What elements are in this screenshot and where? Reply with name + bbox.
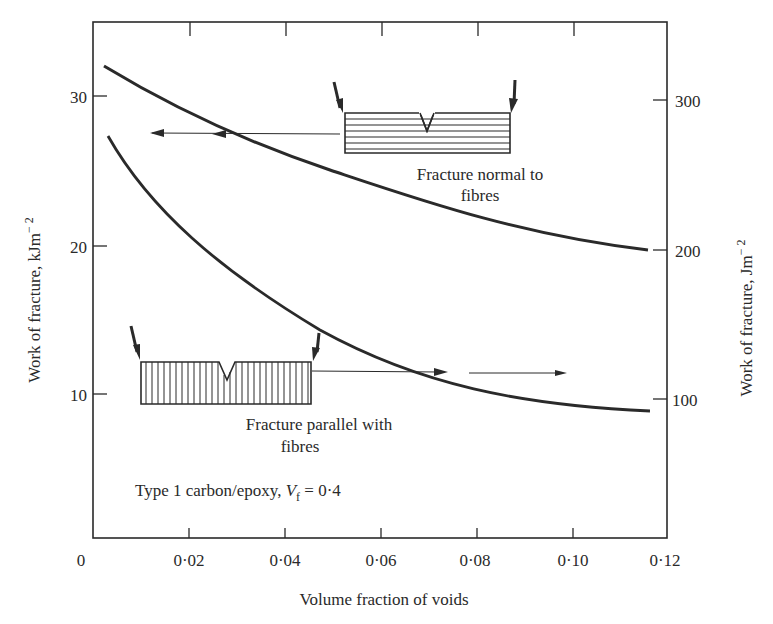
y-tick-label: 100 (672, 391, 698, 410)
x-axis-title: Volume fraction of voids (299, 590, 468, 609)
y-axis-title-left-text: Work of fracture, kJm (25, 233, 44, 383)
y-tick-label: 300 (675, 92, 701, 111)
y-axis-title-right-sup: − 2 (734, 240, 748, 256)
arrow-right-icon (434, 368, 448, 376)
x-tick-labels: 0 0·02 0·04 0·06 0·08 0·10 0·12 (77, 551, 681, 570)
x-tick-label: 0·10 (557, 551, 588, 570)
y-axis-title-left: Work of fracture, kJm− 2 (22, 217, 44, 382)
svg-text:Work of fracture, kJm− 2: Work of fracture, kJm− 2 (22, 217, 44, 382)
x-tick-label: 0·06 (365, 551, 396, 570)
y-tick-label: 200 (675, 242, 701, 261)
x-tick-label: 0·08 (459, 551, 490, 570)
label-fracture-parallel-1: Fracture parallel with (246, 415, 393, 434)
x-tick-label: 0·12 (649, 551, 680, 570)
material-annotation: Type 1 carbon/epoxy, Vf = 0·4 (135, 481, 341, 504)
material-prefix: Type 1 carbon/epoxy, (135, 481, 286, 500)
y-axis-title-left-sup: − 2 (22, 217, 36, 233)
load-arrow-icon (336, 98, 343, 113)
material-suffix: = 0·4 (300, 481, 341, 500)
arrow-left-icon (150, 129, 164, 137)
label-fracture-normal-1: Fracture normal to (417, 165, 544, 184)
x-tick-label: 0·02 (173, 551, 204, 570)
label-fracture-parallel-2: fibres (281, 437, 320, 456)
y-tick-labels-left: 30 20 10 (70, 88, 87, 405)
curve-fracture-normal (104, 66, 648, 250)
x-tick-label: 0 (77, 551, 86, 570)
x-ticks-top (190, 22, 574, 36)
y-ticks-right (653, 100, 667, 399)
y-tick-label: 30 (70, 88, 87, 107)
specimen-normal-to-fibres (150, 80, 518, 153)
y-ticks-left (93, 96, 107, 394)
y-tick-label: 10 (70, 386, 87, 405)
y-axis-title-right: Work of fracture, Jm− 2 (734, 240, 756, 397)
x-ticks-bottom (189, 528, 573, 538)
svg-text:Work of fracture, Jm− 2: Work of fracture, Jm− 2 (734, 240, 756, 397)
x-tick-label: 0·04 (269, 551, 301, 570)
y-tick-labels-right: 300 200 100 (672, 92, 701, 410)
label-fracture-normal-2: fibres (461, 186, 500, 205)
pointer-line-normal (152, 133, 340, 134)
plot-frame (93, 22, 667, 538)
y-axis-title-right-text: Work of fracture, Jm (737, 255, 756, 396)
arrow-right-icon (555, 370, 567, 376)
specimen-parallel-with-fibres (131, 326, 567, 404)
load-arrow-icon (312, 347, 320, 361)
work-of-fracture-chart: 0 0·02 0·04 0·06 0·08 0·10 0·12 30 20 10… (0, 0, 773, 624)
load-arrow-icon (509, 98, 518, 113)
curve-fracture-parallel (108, 136, 650, 411)
pointer-line-parallel (312, 371, 440, 372)
y-tick-label: 20 (70, 238, 87, 257)
load-arrow-icon (133, 344, 140, 360)
arrow-left-icon (212, 130, 226, 138)
